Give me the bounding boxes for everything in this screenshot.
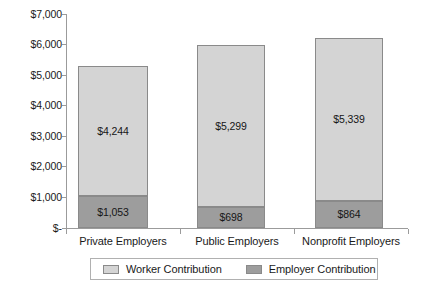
legend-swatch-icon — [246, 265, 262, 274]
y-axis-label: $7,000 — [4, 9, 62, 19]
y-axis-tick-row: $7,000 — [0, 9, 62, 19]
y-axis-label: $4,000 — [4, 100, 62, 110]
x-axis-category-label: Public Employers — [180, 235, 294, 248]
y-axis-label: $5,000 — [4, 70, 62, 80]
x-axis-category-label: Nonprofit Employers — [294, 235, 408, 248]
x-axis-line — [66, 228, 408, 229]
chart-legend: Worker Contribution Employer Contributio… — [90, 258, 378, 280]
bar-value-label: $5,339 — [333, 114, 365, 125]
legend-item-worker-contribution: Worker Contribution — [103, 263, 222, 275]
x-axis-tick-mark — [66, 229, 67, 234]
bar-value-label: $864 — [338, 209, 361, 220]
y-axis-tick-mark — [62, 166, 66, 167]
bar-stack-public-employers: $5,299 $698 — [197, 45, 265, 228]
bar-value-label: $1,053 — [97, 207, 129, 218]
y-axis-tick-row: $- — [0, 223, 62, 233]
y-axis-label: $3,000 — [4, 131, 62, 141]
y-axis-tick-mark — [62, 75, 66, 76]
bar-value-label: $4,244 — [97, 126, 129, 137]
bar-value-label: $5,299 — [215, 121, 247, 132]
y-axis-tick-row: $6,000 — [0, 39, 62, 49]
bar-segment-worker: $4,244 — [78, 66, 148, 196]
y-axis-line — [66, 14, 67, 228]
legend-swatch-icon — [103, 265, 119, 274]
y-axis-tick-mark — [62, 105, 66, 106]
legend-label: Worker Contribution — [126, 263, 222, 275]
x-axis-category-label: Private Employers — [66, 235, 180, 248]
bar-segment-employer: $698 — [197, 207, 265, 228]
bar-segment-employer: $864 — [315, 201, 383, 228]
legend-item-employer-contribution: Employer Contribution — [246, 263, 376, 275]
y-axis-tick-mark — [62, 197, 66, 198]
y-axis-tick-row: $2,000 — [0, 161, 62, 171]
legend-label: Employer Contribution — [269, 263, 376, 275]
stacked-bar-chart: $7,000 $6,000 $5,000 $4,000 $3,000 $2,00… — [0, 0, 427, 291]
bar-stack-nonprofit-employers: $5,339 $864 — [315, 38, 383, 228]
x-axis-tick-mark — [294, 229, 295, 234]
bar-value-label: $698 — [220, 212, 243, 223]
y-axis-tick-mark — [62, 136, 66, 137]
bar-segment-employer: $1,053 — [78, 196, 148, 228]
x-axis-tick-mark — [180, 229, 181, 234]
y-axis-tick-row: $4,000 — [0, 100, 62, 110]
y-axis-label: $6,000 — [4, 39, 62, 49]
bar-segment-worker: $5,339 — [315, 38, 383, 201]
y-axis-tick-row: $1,000 — [0, 192, 62, 202]
y-axis-label: $1,000 — [4, 192, 62, 202]
y-axis-tick-mark — [62, 44, 66, 45]
bar-stack-private-employers: $4,244 $1,053 — [78, 66, 148, 228]
y-axis-label: $- — [4, 223, 62, 233]
y-axis-label: $2,000 — [4, 161, 62, 171]
y-axis-tick-row: $5,000 — [0, 70, 62, 80]
y-axis-tick-mark — [62, 14, 66, 15]
bar-segment-worker: $5,299 — [197, 45, 265, 207]
y-axis-tick-row: $3,000 — [0, 131, 62, 141]
x-axis-tick-mark — [408, 229, 409, 234]
